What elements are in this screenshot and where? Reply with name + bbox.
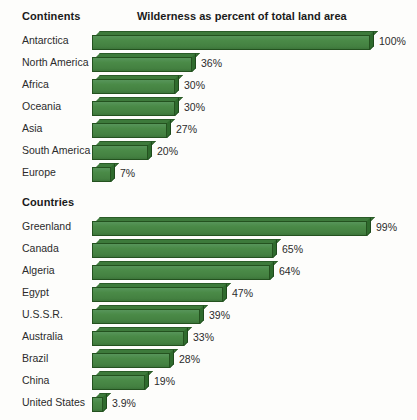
bar-front-face xyxy=(92,243,273,258)
bar-front-face xyxy=(92,145,148,160)
bar-category-label: Canada xyxy=(22,242,86,254)
bar-row: North America36% xyxy=(0,52,417,74)
bar-side-face xyxy=(148,141,152,160)
bar-category-label: Oceania xyxy=(22,100,86,112)
bar-value-label: 19% xyxy=(154,375,175,387)
bar-3d xyxy=(92,31,375,51)
bar-3d xyxy=(92,141,153,161)
bar-side-face xyxy=(367,217,371,236)
bar-row: Brazil28% xyxy=(0,348,417,370)
bar-category-label: Algeria xyxy=(22,264,86,276)
bar-category-label: Africa xyxy=(22,78,86,90)
bar-category-label: South America xyxy=(22,144,86,156)
bar-category-label: North America xyxy=(22,56,86,68)
bar-3d xyxy=(92,119,172,139)
bar-value-label: 30% xyxy=(184,79,205,91)
bar-category-label: Greenland xyxy=(22,220,86,232)
bar-row: Asia27% xyxy=(0,118,417,140)
bar-side-face xyxy=(111,163,115,182)
bar-3d xyxy=(92,371,150,391)
section-heading-countries: Countries xyxy=(22,196,74,208)
bar-front-face xyxy=(92,375,145,390)
bar-front-face xyxy=(92,221,367,236)
bar-side-face xyxy=(200,305,204,324)
bar-row: Africa30% xyxy=(0,74,417,96)
bar-value-label: 99% xyxy=(376,221,397,233)
bar-category-label: Australia xyxy=(22,330,86,342)
bar-value-label: 47% xyxy=(232,287,253,299)
wilderness-bar-chart: Wilderness as percent of total land area… xyxy=(0,0,417,420)
bar-side-face xyxy=(145,371,149,390)
bar-3d xyxy=(92,327,189,347)
bar-3d xyxy=(92,305,205,325)
bar-row: China19% xyxy=(0,370,417,392)
bar-3d xyxy=(92,97,180,117)
bar-row: Europe7% xyxy=(0,162,417,184)
bar-value-label: 27% xyxy=(176,123,197,135)
bar-3d xyxy=(92,75,180,95)
bar-front-face xyxy=(92,101,175,116)
bar-category-label: China xyxy=(22,374,86,386)
continents-bar-group: Antarctica100%North America36%Africa30%O… xyxy=(0,30,417,184)
bar-category-label: Europe xyxy=(22,166,86,178)
bar-value-label: 36% xyxy=(201,57,222,69)
bar-value-label: 30% xyxy=(184,101,205,113)
bar-side-face xyxy=(192,53,196,72)
bar-value-label: 7% xyxy=(120,167,135,179)
bar-value-label: 33% xyxy=(193,331,214,343)
bar-value-label: 3.9% xyxy=(112,397,136,409)
bar-front-face xyxy=(92,397,103,412)
bar-front-face xyxy=(92,167,111,182)
bar-3d xyxy=(92,349,175,369)
bar-side-face xyxy=(175,75,179,94)
bar-front-face xyxy=(92,123,167,138)
chart-title: Wilderness as percent of total land area xyxy=(137,10,347,22)
bar-value-label: 28% xyxy=(179,353,200,365)
bar-category-label: Asia xyxy=(22,122,86,134)
bar-row: Oceania30% xyxy=(0,96,417,118)
bar-side-face xyxy=(184,327,188,346)
bar-value-label: 39% xyxy=(209,309,230,321)
bar-front-face xyxy=(92,287,223,302)
bar-3d xyxy=(92,283,228,303)
bar-side-face xyxy=(370,31,374,50)
bar-front-face xyxy=(92,265,270,280)
bar-category-label: Brazil xyxy=(22,352,86,364)
bar-side-face xyxy=(175,97,179,116)
bar-front-face xyxy=(92,309,200,324)
bar-row: United States3.9% xyxy=(0,392,417,414)
bar-row: Greenland99% xyxy=(0,216,417,238)
bar-front-face xyxy=(92,331,184,346)
bar-category-label: United States xyxy=(22,396,86,408)
bar-category-label: U.S.S.R. xyxy=(22,308,86,320)
bar-row: Egypt47% xyxy=(0,282,417,304)
bar-category-label: Egypt xyxy=(22,286,86,298)
bar-row: Australia33% xyxy=(0,326,417,348)
bar-row: U.S.S.R.39% xyxy=(0,304,417,326)
bar-value-label: 20% xyxy=(157,145,178,157)
bar-row: Canada65% xyxy=(0,238,417,260)
bar-side-face xyxy=(223,283,227,302)
bar-side-face xyxy=(270,261,274,280)
section-heading-continents: Continents xyxy=(22,10,80,22)
bar-side-face xyxy=(103,393,107,412)
bar-front-face xyxy=(92,353,170,368)
bar-3d xyxy=(92,53,197,73)
bar-row: Algeria64% xyxy=(0,260,417,282)
bar-row: Antarctica100% xyxy=(0,30,417,52)
bar-side-face xyxy=(170,349,174,368)
bar-row: South America20% xyxy=(0,140,417,162)
bar-value-label: 65% xyxy=(282,243,303,255)
bar-front-face xyxy=(92,79,175,94)
bar-3d xyxy=(92,239,278,259)
bar-side-face xyxy=(273,239,277,258)
bar-3d xyxy=(92,163,116,183)
bar-front-face xyxy=(92,35,370,50)
bar-value-label: 64% xyxy=(279,265,300,277)
bar-3d xyxy=(92,261,275,281)
bar-3d xyxy=(92,217,372,237)
countries-bar-group: Greenland99%Canada65%Algeria64%Egypt47%U… xyxy=(0,216,417,414)
bar-3d xyxy=(92,393,108,413)
bar-front-face xyxy=(92,57,192,72)
bar-side-face xyxy=(167,119,171,138)
